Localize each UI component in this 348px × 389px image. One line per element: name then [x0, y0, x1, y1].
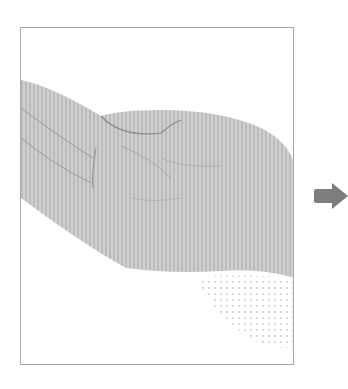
image-frame — [20, 27, 294, 365]
right-arrow-icon — [314, 181, 348, 211]
hand-halftone-image — [21, 28, 294, 365]
